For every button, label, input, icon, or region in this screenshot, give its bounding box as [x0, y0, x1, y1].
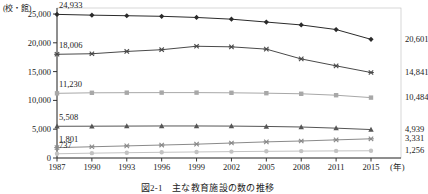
series-marker-series-5 — [89, 145, 95, 149]
series-marker-series-5 — [194, 142, 200, 146]
series-marker-series-1 — [299, 22, 304, 27]
series-marker-series-2 — [368, 70, 374, 74]
series-marker-series-1 — [194, 15, 199, 20]
series-marker-series-2 — [124, 49, 130, 53]
series-line-series-5 — [57, 139, 371, 148]
series-marker-series-3 — [125, 90, 129, 94]
series-marker-series-6 — [125, 151, 129, 155]
series-marker-series-3 — [299, 92, 303, 96]
end-value-label-series-1: 20,601 — [405, 35, 428, 44]
start-value-label-series-2: 18,006 — [59, 41, 82, 50]
series-marker-series-3 — [90, 91, 94, 95]
series-marker-series-6 — [264, 149, 268, 153]
end-value-label-series-4: 4,939 — [405, 125, 424, 134]
series-marker-series-1 — [264, 19, 269, 24]
series-marker-series-6 — [90, 151, 94, 155]
end-value-label-series-5: 3,331 — [405, 134, 424, 143]
series-marker-series-3 — [334, 93, 338, 97]
series-marker-series-6 — [55, 152, 59, 156]
start-value-label-series-4: 5,508 — [59, 113, 78, 122]
series-marker-series-5 — [159, 143, 165, 147]
series-marker-series-3 — [55, 91, 59, 95]
series-line-series-1 — [57, 14, 371, 39]
series-marker-series-6 — [369, 149, 373, 153]
series-marker-series-2 — [194, 44, 200, 48]
series-marker-series-2 — [333, 64, 339, 68]
end-value-label-series-3: 10,484 — [405, 93, 428, 102]
series-marker-series-5 — [333, 138, 339, 142]
series-marker-series-5 — [124, 144, 130, 148]
start-value-label-series-1: 24,933 — [59, 1, 82, 10]
end-value-label-series-6: 1,256 — [405, 146, 424, 155]
series-marker-series-3 — [194, 90, 198, 94]
series-marker-series-5 — [229, 141, 235, 145]
series-marker-series-6 — [334, 149, 338, 153]
figure-caption: 図2-1 主な教育施設の数の推移 — [0, 181, 415, 194]
series-marker-series-1 — [229, 17, 234, 22]
start-value-label-series-3: 11,230 — [59, 80, 82, 89]
series-marker-series-6 — [194, 150, 198, 154]
end-value-label-series-2: 14,841 — [405, 68, 428, 77]
series-line-series-6 — [57, 151, 371, 154]
series-marker-series-6 — [159, 150, 163, 154]
series-marker-series-2 — [229, 45, 235, 49]
series-marker-series-5 — [264, 140, 270, 144]
series-marker-series-1 — [54, 12, 59, 17]
series-marker-series-2 — [264, 47, 270, 51]
series-marker-series-3 — [159, 90, 163, 94]
series-marker-series-1 — [89, 13, 94, 18]
series-marker-series-5 — [368, 137, 374, 141]
series-marker-series-1 — [159, 14, 164, 19]
series-marker-series-2 — [89, 52, 95, 56]
series-marker-series-2 — [159, 48, 165, 52]
series-marker-series-1 — [334, 27, 339, 32]
series-marker-series-1 — [124, 13, 129, 18]
start-value-label-series-6: 737 — [59, 141, 72, 150]
series-line-series-3 — [57, 93, 371, 98]
series-marker-series-3 — [369, 95, 373, 99]
series-marker-series-1 — [368, 37, 373, 42]
series-marker-series-6 — [229, 149, 233, 153]
series-line-series-4 — [57, 126, 371, 130]
series-marker-series-3 — [264, 91, 268, 95]
series-marker-series-5 — [298, 139, 304, 143]
series-marker-series-3 — [229, 91, 233, 95]
series-marker-series-6 — [299, 149, 303, 153]
series-marker-series-2 — [298, 57, 304, 61]
series-line-series-2 — [57, 46, 371, 72]
